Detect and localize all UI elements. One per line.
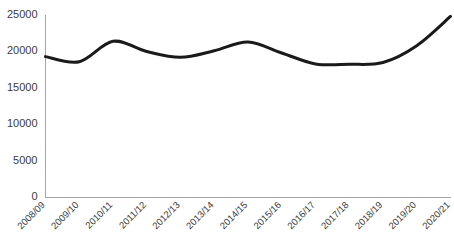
line-chart: 05000100001500020000250002008/092009/102… bbox=[0, 0, 454, 252]
x-tick-label: 2017/18 bbox=[319, 199, 351, 231]
x-tick-label: 2016/17 bbox=[285, 199, 317, 231]
x-tick-label: 2019/20 bbox=[386, 199, 418, 231]
x-tick-label: 2012/13 bbox=[150, 199, 182, 231]
y-tick-label: 5000 bbox=[13, 154, 37, 166]
x-tick-label: 2008/09 bbox=[15, 199, 47, 231]
y-tick-label: 10000 bbox=[7, 117, 38, 129]
x-tick-label: 2013/14 bbox=[184, 199, 216, 231]
x-tick-label: 2011/12 bbox=[117, 199, 149, 231]
x-tick-label: 2015/16 bbox=[251, 199, 283, 231]
x-tick-label: 2010/11 bbox=[83, 199, 115, 231]
x-tick-label: 2014/15 bbox=[217, 199, 249, 231]
x-tick-label: 2020/21 bbox=[420, 199, 452, 231]
y-tick-label: 25000 bbox=[7, 8, 38, 20]
x-tick-label: 2009/10 bbox=[49, 199, 81, 231]
x-axis-tick-labels: 2008/092009/102010/112011/122012/132013/… bbox=[15, 199, 452, 231]
y-tick-label: 15000 bbox=[7, 81, 38, 93]
y-tick-label: 20000 bbox=[7, 44, 38, 56]
chart-canvas: 05000100001500020000250002008/092009/102… bbox=[0, 0, 454, 252]
x-tick-label: 2018/19 bbox=[352, 199, 384, 231]
series-group bbox=[46, 16, 451, 64]
y-axis-tick-labels: 0500010000150002000025000 bbox=[7, 8, 38, 203]
data-line-1 bbox=[46, 16, 451, 64]
